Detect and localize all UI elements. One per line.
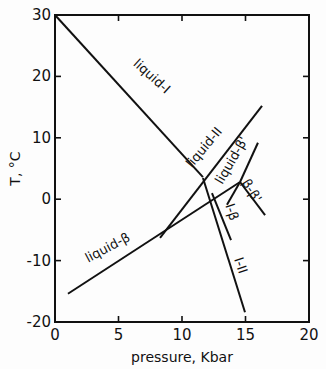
- x-tick-label: 20: [299, 326, 318, 344]
- phase-boundary-line: [55, 15, 203, 177]
- curve-label: I-β: [222, 202, 241, 223]
- y-tick-label: -10: [27, 252, 52, 270]
- y-tick-label: 0: [41, 190, 51, 208]
- curve-label: I-II: [231, 255, 250, 275]
- y-tick-label: -20: [27, 313, 52, 331]
- curve-label: liquid-I: [131, 56, 174, 97]
- plot-frame: [55, 15, 309, 322]
- curve-label: β-β': [239, 176, 265, 205]
- x-tick-label: 15: [236, 326, 255, 344]
- curve-label: liquid-β: [83, 229, 133, 265]
- y-axis-title: T, °C: [7, 151, 23, 186]
- phase-boundary-line: [203, 178, 245, 312]
- y-tick-label: 30: [32, 6, 51, 24]
- y-tick-label: 10: [32, 129, 51, 147]
- x-tick-label: 0: [50, 326, 60, 344]
- x-tick-label: 5: [114, 326, 124, 344]
- x-axis-title: pressure, Kbar: [131, 349, 233, 365]
- y-tick-label: 20: [32, 67, 51, 85]
- x-tick-label: 10: [172, 326, 191, 344]
- chart-svg: 051015203020100-10-20pressure, KbarT, °C…: [0, 0, 326, 369]
- phase-diagram: 051015203020100-10-20pressure, KbarT, °C…: [0, 0, 326, 369]
